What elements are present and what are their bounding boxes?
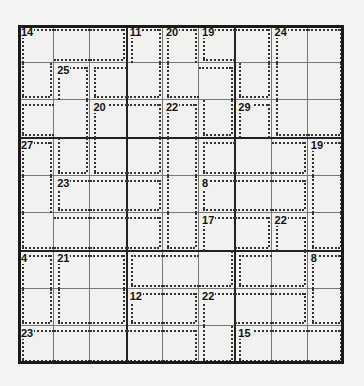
cage-sum-label: 23 — [56, 178, 70, 189]
cage-sum-label: 8 — [201, 178, 209, 189]
cage-border — [167, 138, 169, 176]
cage-border — [90, 180, 126, 182]
cage-border — [268, 63, 270, 97]
cage-border — [231, 251, 233, 285]
cage-border — [199, 285, 231, 287]
cage-sum-label: 23 — [20, 328, 34, 339]
cage-border — [22, 134, 54, 136]
cage-border — [131, 322, 163, 324]
cage-border — [123, 255, 125, 289]
cage-border — [272, 142, 304, 144]
cage-border — [94, 67, 126, 69]
cage-border — [195, 29, 197, 63]
cage-sum-label: 14 — [20, 27, 34, 38]
cell-r4-c4[interactable] — [127, 138, 163, 176]
cage-border — [163, 285, 199, 287]
cage-border — [272, 360, 308, 362]
cage-border — [195, 176, 197, 214]
cage-border — [131, 255, 133, 285]
cage-border — [312, 322, 340, 324]
cage-sum-label: 15 — [237, 328, 251, 339]
cage-border — [127, 247, 159, 249]
cage-border — [54, 59, 90, 61]
cage-border — [90, 217, 126, 219]
cage-border — [159, 180, 161, 210]
cage-border — [167, 176, 169, 214]
cage-border — [203, 209, 235, 211]
cell-r3-c2[interactable] — [54, 100, 90, 138]
cage-border — [340, 142, 342, 176]
cage-border — [90, 59, 122, 61]
cage-border — [195, 330, 197, 360]
cage-border — [308, 330, 340, 332]
killer-sudoku-grid: 1411201924252022292719238172242181222231… — [18, 25, 344, 364]
cage-border — [58, 172, 86, 174]
cage-border — [127, 96, 159, 98]
cell-r7-c8[interactable] — [272, 251, 308, 289]
cage-border — [304, 293, 306, 323]
cage-border — [22, 96, 50, 98]
cage-border — [276, 100, 278, 134]
cage-sum-label: 19 — [310, 140, 324, 151]
cage-sum-label: 12 — [129, 291, 143, 302]
cage-border — [203, 142, 235, 144]
cage-border — [235, 247, 267, 249]
cage-border — [58, 138, 60, 172]
cage-border — [235, 217, 267, 219]
cage-border — [90, 330, 126, 332]
cage-sum-label: 20 — [92, 102, 106, 113]
cage-sum-label: 17 — [201, 215, 215, 226]
cage-border — [22, 289, 24, 323]
cage-border — [340, 100, 342, 134]
cage-border — [340, 255, 342, 289]
cage-border — [308, 360, 340, 362]
cage-border — [312, 176, 314, 214]
cage-border — [50, 142, 52, 176]
cage-sum-label: 8 — [310, 253, 318, 264]
cage-border — [159, 138, 161, 172]
cell-r4-c7[interactable] — [235, 138, 271, 176]
cage-border — [272, 330, 308, 332]
cage-border — [127, 330, 163, 332]
cage-border — [50, 176, 52, 214]
cage-border — [167, 96, 199, 98]
cage-border — [272, 172, 304, 174]
cage-border — [127, 180, 159, 182]
cage-border — [123, 289, 125, 323]
cage-border — [195, 104, 197, 138]
cell-r2-c9[interactable] — [308, 63, 344, 101]
cage-border — [50, 289, 52, 323]
cage-border — [340, 176, 342, 214]
cage-border — [90, 209, 126, 211]
cage-border — [90, 29, 122, 31]
cage-border — [163, 360, 195, 362]
cage-border — [276, 63, 278, 101]
cage-border — [272, 209, 304, 211]
cage-border — [127, 172, 159, 174]
cage-border — [276, 134, 308, 136]
cage-border — [90, 360, 126, 362]
cage-border — [86, 100, 88, 138]
cage-border — [235, 180, 271, 182]
cage-border — [239, 360, 271, 362]
cage-border — [268, 104, 270, 138]
cage-border — [159, 29, 161, 63]
cage-border — [203, 100, 205, 134]
cell-r2-c4[interactable] — [127, 63, 163, 101]
cell-r8-c3[interactable] — [90, 289, 126, 327]
cage-border — [90, 255, 122, 257]
cage-sum-label: 22 — [274, 215, 288, 226]
cage-border — [239, 255, 271, 257]
cage-border — [159, 104, 161, 138]
cage-border — [203, 142, 205, 172]
cage-border — [203, 360, 231, 362]
cage-sum-label: 4 — [20, 253, 28, 264]
cage-border — [94, 96, 126, 98]
cage-border — [50, 255, 52, 289]
cage-sum-label: 11 — [129, 27, 143, 38]
cage-border — [235, 29, 267, 31]
cell-r7-c6[interactable] — [199, 251, 235, 289]
cage-border — [195, 213, 197, 247]
cell-r3-c9[interactable] — [308, 100, 344, 138]
cage-border — [312, 247, 340, 249]
